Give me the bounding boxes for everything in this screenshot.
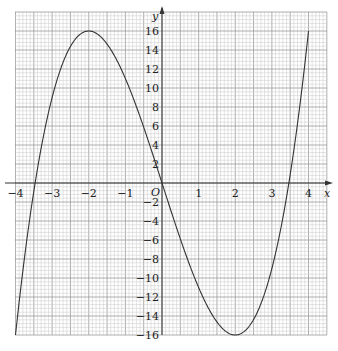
y-tick-label: −14 — [136, 310, 159, 323]
y-tick-label: 8 — [152, 101, 159, 114]
origin-label: O — [151, 186, 160, 199]
graph-paper-grid — [15, 12, 327, 335]
x-tick-label: −1 — [117, 187, 133, 200]
y-tick-label: −6 — [143, 234, 159, 247]
y-tick-label: 10 — [145, 82, 159, 95]
x-tick-label: 3 — [268, 187, 275, 200]
y-tick-label: −4 — [143, 215, 159, 228]
x-tick-label: −4 — [7, 187, 23, 200]
x-tick-label: 1 — [195, 187, 202, 200]
y-tick-label: 6 — [152, 120, 159, 133]
y-tick-label: 14 — [145, 44, 159, 57]
x-tick-label: 2 — [232, 187, 239, 200]
x-tick-label: −2 — [81, 187, 97, 200]
y-axis-label: y — [151, 10, 159, 23]
x-axis-label: x — [324, 187, 331, 200]
x-tick-label: 4 — [305, 187, 312, 200]
y-tick-label: −10 — [136, 272, 159, 285]
y-tick-label: −16 — [136, 329, 159, 342]
y-tick-label: 4 — [152, 139, 159, 152]
y-tick-label: 12 — [145, 63, 159, 76]
y-tick-label: −8 — [143, 253, 159, 266]
y-tick-label: −12 — [136, 291, 159, 304]
x-tick-label: −3 — [44, 187, 60, 200]
cubic-function-chart: −4−3−2−11234161412108642−2−4−6−8−10−12−1… — [0, 0, 338, 351]
y-tick-label: 16 — [145, 25, 159, 38]
